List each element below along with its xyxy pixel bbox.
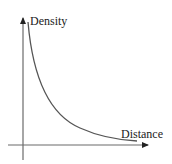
decay-curve [28, 22, 137, 141]
y-axis-label: Density [30, 14, 67, 28]
density-distance-diagram: Density Distance [0, 0, 172, 164]
x-axis-label: Distance [121, 127, 163, 141]
